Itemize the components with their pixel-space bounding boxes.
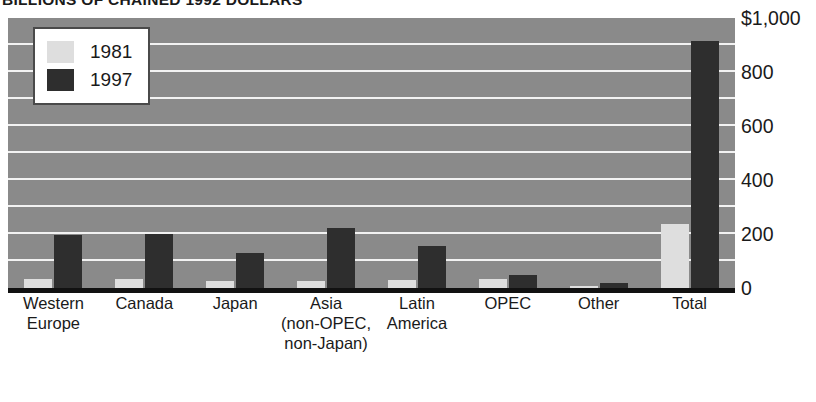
bar-1997 (691, 41, 719, 288)
bar-1981 (661, 224, 689, 288)
bar-1997 (418, 246, 446, 288)
bar-group (190, 18, 281, 288)
bar-group (281, 18, 372, 288)
bar-group (644, 18, 735, 288)
y-axis-labels: $1,0008006004002000 (741, 0, 816, 300)
x-axis-tick-label: Total (612, 293, 766, 313)
y-axis-tick-label: 600 (741, 115, 813, 138)
bar-group (553, 18, 644, 288)
chart-figure: BILLIONS OF CHAINED 1992 DOLLARS $1,0008… (0, 0, 816, 402)
legend-item-1997: 1997 (47, 66, 132, 94)
bar-1981 (115, 279, 143, 288)
bar-1981 (388, 280, 416, 288)
x-axis-labels: WesternEuropeCanadaJapanAsia(non-OPEC,no… (8, 293, 735, 393)
y-axis-tick-label: 800 (741, 61, 813, 84)
bar-group (372, 18, 463, 288)
y-axis-tick-label: 200 (741, 223, 813, 246)
legend-label-1997: 1997 (90, 69, 132, 91)
y-axis-tick-label: 400 (741, 169, 813, 192)
bar-1981 (297, 281, 325, 288)
legend-label-1981: 1981 (90, 41, 132, 63)
bar-1997 (54, 235, 82, 288)
bar-1997 (145, 234, 173, 288)
chart-legend: 1981 1997 (33, 27, 150, 105)
bar-1981 (206, 281, 234, 288)
bar-1981 (24, 279, 52, 288)
bar-1997 (327, 228, 355, 288)
legend-swatch-1997 (47, 69, 74, 91)
legend-swatch-1981 (47, 41, 74, 63)
bar-group (462, 18, 553, 288)
legend-item-1981: 1981 (47, 38, 132, 66)
bar-1997 (236, 253, 264, 288)
chart-title: BILLIONS OF CHAINED 1992 DOLLARS (2, 0, 303, 9)
bar-1997 (509, 275, 537, 288)
bar-1981 (479, 279, 507, 288)
y-axis-tick-label: $1,000 (741, 7, 813, 30)
